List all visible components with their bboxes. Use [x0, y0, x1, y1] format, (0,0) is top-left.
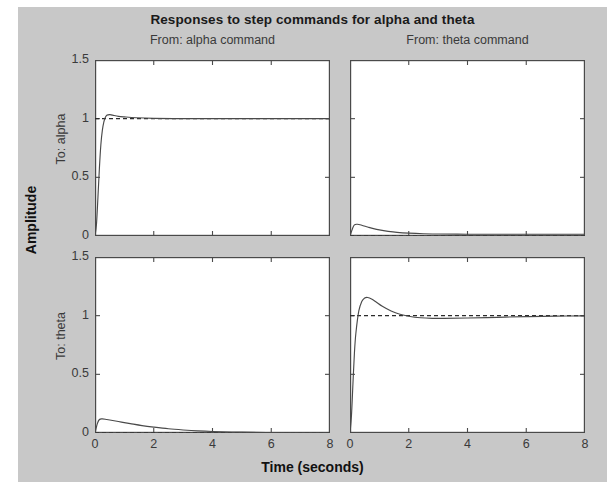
x-tick-label: 6	[260, 437, 282, 451]
x-tick-label: 2	[398, 437, 420, 451]
y-tick-label: 1.5	[55, 52, 89, 66]
x-tick-label: 8	[574, 437, 596, 451]
column-title-alpha-command: From: alpha command	[95, 33, 330, 47]
chart-title: Responses to step commands for alpha and…	[18, 12, 607, 27]
x-tick-label: 4	[457, 437, 479, 451]
y-tick-label: 0.5	[55, 169, 89, 183]
subplot-theta-command-to-alpha[interactable]	[350, 60, 585, 236]
plot-frame	[351, 258, 585, 433]
y-tick-label: 1	[55, 111, 89, 125]
tick-marks	[95, 60, 330, 236]
plot-frame	[96, 258, 330, 433]
figure-canvas: Responses to step commands for alpha and…	[18, 7, 607, 482]
y-tick-label: 1	[55, 308, 89, 322]
column-title-theta-command: From: theta command	[350, 33, 585, 47]
subplot-theta-command-to-theta[interactable]	[350, 257, 585, 433]
y-tick-label: 0.5	[55, 366, 89, 380]
x-tick-label: 4	[202, 437, 224, 451]
plot-frame	[96, 61, 330, 236]
response-curve	[95, 115, 330, 236]
x-tick-label: 6	[515, 437, 537, 451]
subplot-alpha-command-to-alpha[interactable]	[95, 60, 330, 236]
x-tick-label: 0	[339, 437, 361, 451]
response-curve	[350, 297, 585, 433]
tick-marks	[350, 60, 585, 236]
x-axis-label: Time (seconds)	[18, 459, 607, 475]
y-tick-label: 0	[55, 228, 89, 242]
x-tick-label: 8	[319, 437, 341, 451]
tick-marks	[350, 257, 585, 433]
subplot-alpha-command-to-theta[interactable]	[95, 257, 330, 433]
response-curve	[350, 224, 585, 236]
tick-marks	[95, 257, 330, 433]
y-axis-label: Amplitude	[23, 140, 39, 300]
y-tick-label: 1.5	[55, 249, 89, 263]
x-tick-label: 0	[84, 437, 106, 451]
x-tick-label: 2	[143, 437, 165, 451]
plot-frame	[351, 61, 585, 236]
